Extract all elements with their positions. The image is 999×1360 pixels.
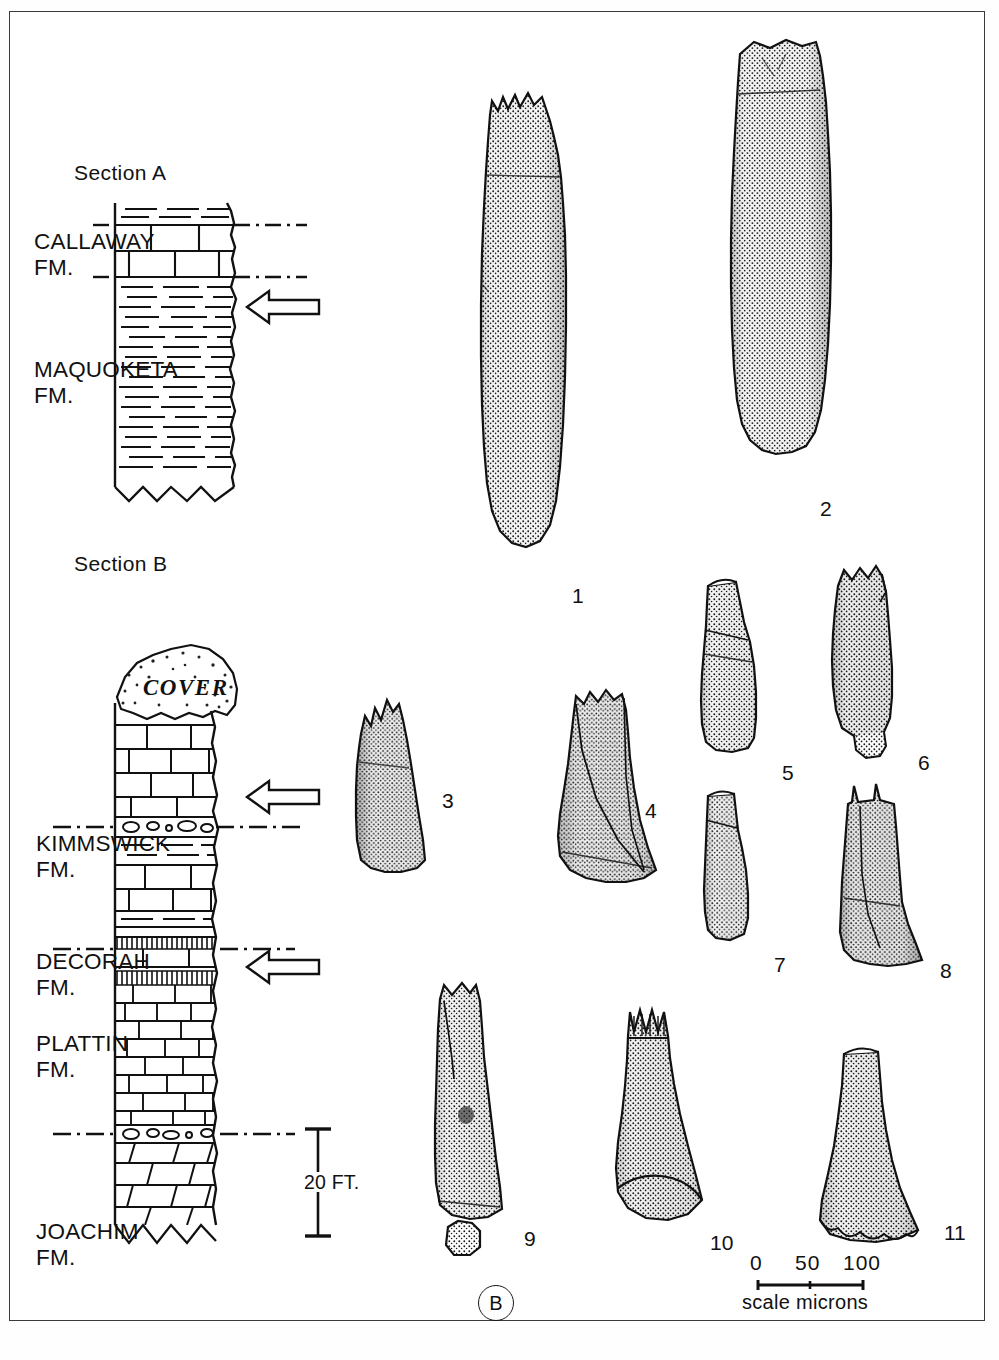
formation-label-decorah: DECORAH <box>36 950 150 973</box>
formation-label-maquoketa: MAQUOKETA <box>34 358 178 381</box>
scale-tick-50: 50 <box>795 1252 820 1274</box>
specimen-11-illustration <box>800 1040 940 1270</box>
figure-plate: Section A <box>0 0 999 1360</box>
sample-arrow-plattin <box>243 945 323 989</box>
sample-arrow-section-a <box>243 285 323 329</box>
svg-text:COVER: COVER <box>143 675 228 700</box>
specimen-number-6: 6 <box>918 752 930 774</box>
scale-tick-0: 0 <box>750 1252 763 1274</box>
specimen-number-3: 3 <box>442 790 454 812</box>
formation-suffix-joachim: FM. <box>36 1246 75 1269</box>
formation-suffix-maquoketa: FM. <box>34 384 73 407</box>
section-a-title: Section A <box>74 162 166 184</box>
specimen-number-4: 4 <box>645 800 657 822</box>
specimen-9-illustration <box>418 975 528 1265</box>
formation-label-joachim: JOACHIM <box>36 1220 139 1243</box>
specimen-number-2: 2 <box>820 498 832 520</box>
specimen-5-illustration <box>688 568 778 768</box>
section-b-title: Section B <box>74 553 168 575</box>
scale-tick-100: 100 <box>843 1252 881 1274</box>
specimen-number-5: 5 <box>782 762 794 784</box>
formation-suffix-decorah: FM. <box>36 976 75 999</box>
formation-label-kimmswick: KIMMSWICK <box>36 832 170 855</box>
formation-suffix-callaway: FM. <box>34 256 73 279</box>
scale-caption: scale microns <box>742 1292 868 1313</box>
formation-label-plattin: PLATTIN <box>36 1032 128 1055</box>
specimen-number-7: 7 <box>774 954 786 976</box>
specimen-8-illustration <box>826 778 936 978</box>
specimen-number-1: 1 <box>572 585 584 607</box>
specimen-number-10: 10 <box>710 1232 733 1254</box>
formation-suffix-kimmswick: FM. <box>36 858 75 881</box>
specimen-6-illustration <box>818 558 918 768</box>
sample-arrow-kimmswick <box>243 775 323 819</box>
specimen-number-11: 11 <box>944 1222 966 1244</box>
panel-label-b-text: B <box>489 1292 502 1315</box>
formation-label-callaway: CALLAWAY <box>34 230 155 253</box>
specimen-number-8: 8 <box>940 960 952 982</box>
specimen-number-9: 9 <box>524 1228 536 1250</box>
specimen-4-illustration <box>540 680 680 900</box>
scale-bar-line <box>755 1278 875 1292</box>
specimen-2-illustration <box>716 32 856 507</box>
specimen-7-illustration <box>692 782 772 962</box>
specimen-3-illustration <box>345 690 455 890</box>
formation-suffix-plattin: FM. <box>36 1058 75 1081</box>
specimen-1-illustration <box>462 85 592 605</box>
panel-label-b: B <box>478 1285 514 1321</box>
vertical-scale-label: 20 FT. <box>302 1172 361 1192</box>
